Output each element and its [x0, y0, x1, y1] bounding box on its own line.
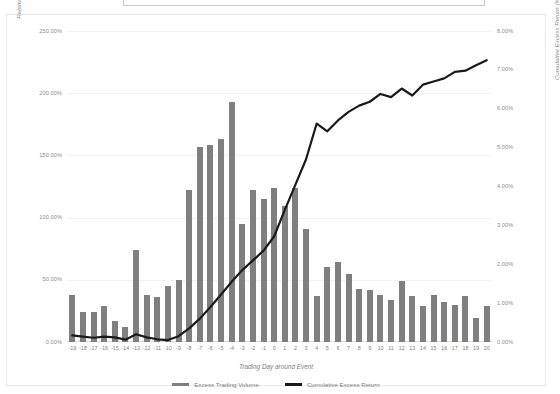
- top-cropped-box: [123, 0, 485, 6]
- y-axis-left-tick-label: 250.00%: [39, 28, 67, 34]
- chart-legend: Excess Trading VolumeCumulative Excess R…: [7, 381, 545, 388]
- y-axis-left-tick-label: 0.00%: [46, 339, 67, 345]
- plot-area: 0.00%50.00%100.00%150.00%200.00%250.00% …: [67, 31, 492, 342]
- legend-item[interactable]: Excess Trading Volume: [172, 381, 259, 388]
- chart-container: Relative Trading Volume (as % of Pre-tar…: [6, 14, 546, 386]
- y-axis-left-tick-label: 200.00%: [39, 90, 67, 96]
- y-axis-right-title: Cumulative Excess Return (%): [553, 0, 560, 133]
- cumulative-excess-return-line: [72, 60, 486, 340]
- y-axis-right-tick-label: 3.00%: [492, 222, 513, 228]
- y-axis-left-tick-label: 150.00%: [39, 152, 67, 158]
- y-axis-right-tick-label: 1.00%: [492, 300, 513, 306]
- y-axis-left-title: Relative Trading Volume (as % of Pre-tar…: [15, 0, 22, 67]
- y-axis-right-tick-label: 6.00%: [492, 105, 513, 111]
- y-axis-right-tick-label: 4.00%: [492, 183, 513, 189]
- line-series-cumulative-excess-return: [67, 31, 492, 342]
- x-axis-tick-label: 20: [480, 345, 494, 351]
- legend-label: Cumulative Excess Return: [307, 381, 380, 388]
- y-axis-right-tick-label: 5.00%: [492, 144, 513, 150]
- y-axis-right-tick-label: 2.00%: [492, 261, 513, 267]
- y-axis-left-tick-label: 100.00%: [39, 214, 67, 220]
- legend-swatch: [285, 383, 302, 386]
- y-axis-right-tick-label: 7.00%: [492, 66, 513, 72]
- y-axis-right-tick-label: 8.00%: [492, 28, 513, 34]
- legend-swatch: [172, 383, 189, 386]
- y-axis-right-tick-label: 0.00%: [492, 339, 513, 345]
- x-axis-title: Trading Day around Event: [7, 363, 545, 370]
- legend-item[interactable]: Cumulative Excess Return: [285, 381, 380, 388]
- y-axis-left-tick-label: 50.00%: [42, 276, 67, 282]
- legend-label: Excess Trading Volume: [194, 381, 259, 388]
